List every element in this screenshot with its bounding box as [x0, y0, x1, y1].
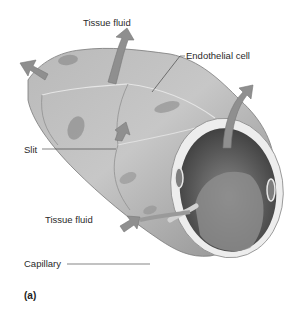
label-tissue-fluid-top: Tissue fluid [83, 18, 131, 28]
capillary-diagram: Tissue fluid Endothelial cell Slit Tissu… [0, 0, 299, 319]
arrow-bottom [120, 216, 140, 232]
label-tissue-fluid-bottom: Tissue fluid [45, 215, 93, 225]
label-capillary: Capillary [24, 259, 61, 269]
panel-label: (a) [24, 291, 36, 301]
label-slit: Slit [24, 145, 37, 155]
capillary-illustration [0, 0, 299, 319]
label-endothelial-cell: Endothelial cell [186, 51, 250, 61]
